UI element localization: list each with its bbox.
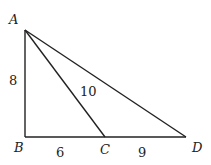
triangle-diagram: A B C D 8 10 6 9 <box>0 0 211 165</box>
length-label-bc: 6 <box>56 145 64 160</box>
segment-ad <box>25 30 186 137</box>
point-label-c: C <box>100 142 110 157</box>
length-label-ab: 8 <box>9 73 17 88</box>
point-label-b: B <box>13 140 24 155</box>
length-label-cd: 9 <box>138 145 146 160</box>
point-label-a: A <box>8 12 18 27</box>
length-label-ac: 10 <box>80 84 97 99</box>
point-label-d: D <box>191 140 203 155</box>
